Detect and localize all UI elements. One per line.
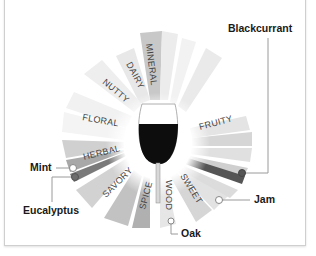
flavor-wheel: MINERAL DAIRY NUTTY FLORAL HERBAL SAVORY… bbox=[0, 0, 316, 256]
callout-mint: Mint bbox=[30, 161, 52, 173]
callout-blackcurrant: Blackcurrant bbox=[228, 22, 292, 34]
label-wood: WOOD bbox=[164, 180, 174, 210]
callout-oak: Oak bbox=[181, 227, 201, 239]
callout-eucalyptus: Eucalyptus bbox=[23, 204, 79, 216]
callout-jam: Jam bbox=[254, 193, 275, 205]
